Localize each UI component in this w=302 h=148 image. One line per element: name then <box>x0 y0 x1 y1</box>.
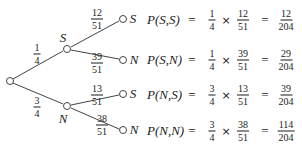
result: 114 204 <box>278 120 295 143</box>
equals-sign: = <box>261 12 268 28</box>
times-sign: × <box>221 125 230 138</box>
equals-sign: = <box>188 52 195 68</box>
result: 39 204 <box>279 84 294 107</box>
factor-a: 1 4 <box>209 9 216 32</box>
factor-b: 39 51 <box>237 49 249 72</box>
prob-label: P(N,N) <box>147 123 184 139</box>
times-sign: × <box>221 54 230 67</box>
factor-a: 3 4 <box>209 84 216 107</box>
equals-sign: = <box>261 87 268 103</box>
factor-a: 1 4 <box>209 49 216 72</box>
factor-b: 13 51 <box>237 84 249 107</box>
factor-b: 12 51 <box>237 9 249 32</box>
equation-row-ns: P(N,S) = 3 4 × 13 51 = 39 204 <box>0 80 302 110</box>
result: 12 204 <box>279 9 294 32</box>
result: 29 204 <box>279 49 294 72</box>
equals-sign: = <box>261 52 268 68</box>
prob-label: P(N,S) <box>147 87 182 103</box>
prob-label: P(S,N) <box>147 52 182 68</box>
times-sign: × <box>221 14 230 27</box>
times-sign: × <box>221 89 230 102</box>
factor-b: 38 51 <box>237 120 249 143</box>
equals-sign: = <box>188 87 195 103</box>
prob-label: P(S,S) <box>147 12 180 28</box>
equals-sign: = <box>188 123 195 139</box>
equation-row-nn: P(N,N) = 3 4 × 38 51 = 114 204 <box>0 116 302 146</box>
equation-row-ss: P(S,S) = 1 4 × 12 51 = 12 204 <box>0 5 302 35</box>
factor-a: 3 4 <box>209 120 216 143</box>
equation-row-sn: P(S,N) = 1 4 × 39 51 = 29 204 <box>0 45 302 75</box>
equals-sign: = <box>261 123 268 139</box>
equals-sign: = <box>188 12 195 28</box>
